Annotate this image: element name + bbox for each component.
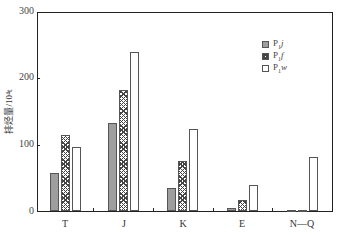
legend-swatch-white — [262, 65, 269, 72]
bar-E-series0 — [227, 208, 236, 211]
legend-label: P1j — [273, 38, 284, 50]
legend-label: P1w — [273, 62, 287, 74]
legend-item-p1f: P1f — [262, 50, 287, 62]
bar-T-series1 — [61, 135, 70, 211]
bar-J-series0 — [108, 123, 117, 211]
bar-J-series1 — [119, 90, 128, 211]
bar-NQ-series2 — [309, 157, 318, 211]
legend-swatch-crosshatch — [262, 53, 269, 60]
bar-E-series2 — [249, 185, 258, 211]
x-tick-label-K: K — [163, 218, 203, 229]
bar-T-series0 — [50, 173, 59, 211]
x-tick — [153, 208, 154, 212]
bar-K-series1 — [178, 161, 187, 211]
x-tick-label-J: J — [104, 218, 144, 229]
x-tick — [93, 208, 94, 212]
y-tick-label-100: 100 — [8, 138, 34, 149]
y-tick-label-300: 300 — [8, 5, 34, 16]
y-tick — [37, 78, 40, 79]
y-axis-label: 排烃量/10⁴t — [2, 82, 15, 142]
x-tick-label-T: T — [45, 218, 85, 229]
legend-label: P1f — [273, 50, 284, 62]
x-tick — [272, 208, 273, 212]
bar-NQ-series1 — [298, 210, 307, 212]
bar-J-series2 — [130, 52, 139, 211]
y-tick-label-0: 0 — [8, 205, 34, 216]
legend-item-p1w: P1w — [262, 62, 287, 74]
bar-NQ-series0 — [287, 210, 296, 212]
legend: P1j P1f P1w — [262, 38, 287, 74]
legend-item-p1j: P1j — [262, 38, 287, 50]
bar-T-series2 — [72, 147, 81, 211]
x-tick-label-E: E — [222, 218, 262, 229]
x-tick-label-NQ: N—Q — [282, 218, 322, 229]
legend-swatch-solid — [262, 41, 269, 48]
y-tick-label-200: 200 — [8, 71, 34, 82]
y-tick — [37, 145, 40, 146]
bar-K-series2 — [189, 129, 198, 211]
bar-E-series1 — [238, 200, 247, 211]
x-tick — [213, 208, 214, 212]
bar-K-series0 — [167, 188, 176, 211]
